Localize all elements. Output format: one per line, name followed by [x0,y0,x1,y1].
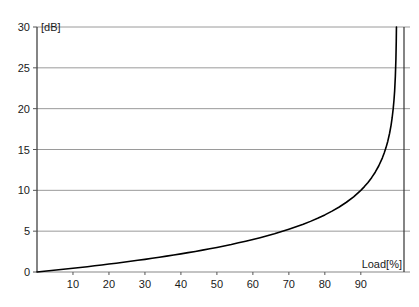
y-tick-label-30: 30 [18,21,30,33]
y-axis-unit-label: [dB] [41,21,61,33]
noise-rise-vs-load-chart: 102030405060708090 051015202530 [dB] Loa… [0,0,419,307]
x-tick-label-30: 30 [139,278,151,290]
x-tick-labels: 102030405060708090 [67,278,367,290]
x-tick-label-80: 80 [319,278,331,290]
x-axis-title: Load[%] [362,258,402,270]
x-tick-label-20: 20 [103,278,115,290]
x-tick-label-70: 70 [283,278,295,290]
y-tick-label-20: 20 [18,103,30,115]
gridlines [37,27,410,231]
y-tick-label-5: 5 [24,225,30,237]
plot-area: 102030405060708090 051015202530 [dB] Loa… [0,0,419,307]
y-tick-label-25: 25 [18,62,30,74]
y-tick-label-0: 0 [24,266,30,278]
x-tick-label-90: 90 [355,278,367,290]
y-tick-labels: 051015202530 [18,21,30,278]
x-tick-label-50: 50 [211,278,223,290]
x-tick-label-60: 60 [247,278,259,290]
x-tick-label-40: 40 [175,278,187,290]
x-tick-label-10: 10 [67,278,79,290]
y-tick-label-10: 10 [18,184,30,196]
y-tick-label-15: 15 [18,144,30,156]
